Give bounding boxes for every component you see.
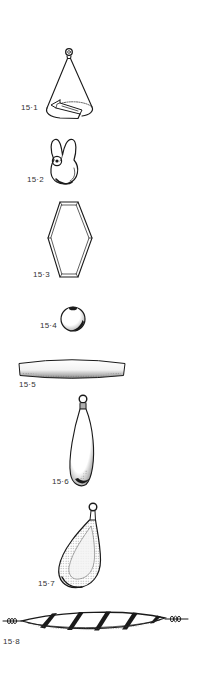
spiral-sinker-drawing (3, 612, 188, 631)
figure-15-2: 15·2 (27, 139, 78, 184)
slim-teardrop-sinker-drawing (70, 395, 94, 486)
figure-15-4: 15·4 (40, 307, 85, 331)
figure-15-3: 15·3 (33, 202, 92, 279)
lobed-sinker-drawing (51, 139, 78, 184)
ball-sinker-drawing (61, 307, 85, 331)
figure-label: 15·3 (33, 270, 50, 279)
figure-label: 15·1 (21, 103, 38, 112)
bar-sinker-drawing (19, 360, 125, 379)
figure-15-8: 15·8 (3, 612, 188, 647)
figure-15-5: 15·5 (19, 360, 125, 389)
figure-label: 15·5 (19, 380, 36, 389)
figure-15-1: 15·1 (21, 49, 93, 119)
hexagon-sinker-drawing (48, 202, 92, 277)
figure-label: 15·8 (3, 637, 20, 646)
figure-label: 15·6 (52, 477, 69, 486)
figure-label: 15·7 (38, 579, 55, 588)
figure-15-7: 15·7 (38, 503, 101, 588)
figure-label: 15·2 (27, 175, 44, 184)
sinker-illustration-plate: 15·1 15·2 15·3 15·4 (0, 0, 201, 673)
figure-15-6: 15·6 (52, 395, 94, 486)
pear-sinker-drawing (59, 503, 101, 587)
cone-sinker-drawing (47, 49, 93, 119)
figure-label: 15·4 (40, 321, 57, 330)
